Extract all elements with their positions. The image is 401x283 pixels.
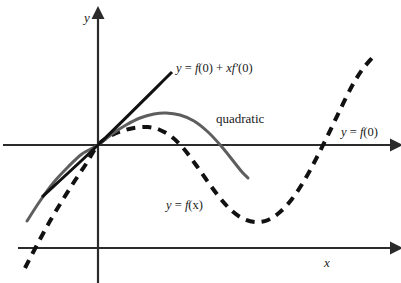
label-tangent-eq: = (182, 61, 195, 75)
label-y-equals-f-of-x: y = f(x) (166, 199, 203, 212)
label-yf0-arg: (0) (363, 125, 378, 139)
taylor-approximation-figure: y = f(0) + xf′(0) quadratic y = f(0) y =… (0, 0, 401, 283)
plot-canvas (0, 0, 401, 283)
label-tangent-equation: y = f(0) + xf′(0) (176, 62, 253, 75)
label-quadratic: quadratic (216, 112, 264, 125)
y-axis-label: y (84, 11, 90, 24)
label-tangent-arg0: (0) (198, 61, 213, 75)
label-tangent-plus: + (213, 61, 226, 75)
x-axis-label: x (324, 256, 330, 269)
curve-tangent-line (42, 72, 172, 197)
label-y-equals-f-zero: y = f(0) (341, 126, 378, 139)
label-yf0-eq: = (347, 125, 360, 139)
label-tangent-arg0b: (0) (238, 61, 253, 75)
label-fx-arg: (x) (188, 198, 203, 212)
label-fx-eq: = (172, 198, 185, 212)
